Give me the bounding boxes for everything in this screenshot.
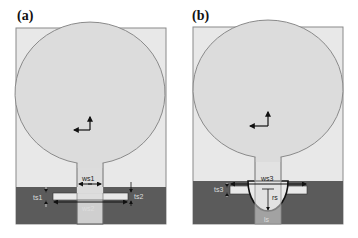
panel-b: ws3 rs ts3 ls <box>193 20 343 224</box>
dim-label-ts3: ts3 <box>214 186 223 193</box>
dim-label-ws3: ws3 <box>260 175 274 182</box>
circular-patch-a <box>15 22 165 163</box>
antenna-diagram: ws1 ws2 ts1 ts2 <box>0 0 358 238</box>
dim-label-ts1: ts1 <box>33 194 42 201</box>
circular-patch-b <box>193 20 343 157</box>
dim-label-ws1: ws1 <box>81 175 95 182</box>
panel-a: ws1 ws2 ts1 ts2 <box>15 22 166 224</box>
dim-label-ls: ls <box>264 216 270 223</box>
dim-label-ts2: ts2 <box>134 193 143 200</box>
dim-label-ws2: ws2 <box>81 205 95 212</box>
dim-label-rs: rs <box>272 194 278 201</box>
